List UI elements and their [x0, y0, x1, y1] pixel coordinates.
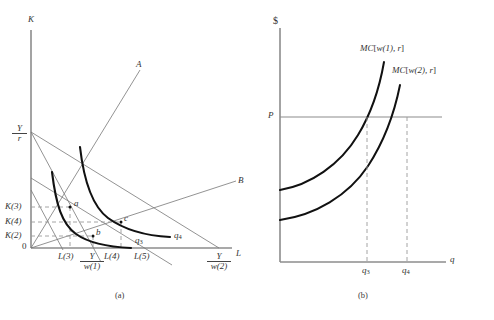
panel-a-caption: (a) — [115, 290, 124, 300]
point-c-dot — [120, 221, 123, 224]
y-intercept-numerator: Y — [12, 124, 27, 133]
x-tick-fraction-y-over-w2: Y w(2) — [207, 252, 231, 271]
isocost-line-w2-outer — [31, 132, 219, 248]
isoquant-q4-curve — [80, 147, 170, 237]
panel-b-y-axis-label: $ — [273, 16, 278, 26]
mc-w1-arg: w(1), r — [377, 43, 402, 53]
panel-a-y-axis-label: K — [28, 15, 34, 24]
isocost-line-w1-inner — [31, 190, 63, 250]
mc-w1-prefix: MC — [360, 43, 374, 53]
panel-a-graphics — [31, 30, 236, 265]
point-a-dot — [69, 206, 72, 209]
y-over-w2-denominator: w(2) — [207, 261, 231, 271]
y-over-w2-numerator: Y — [207, 252, 231, 261]
panel-b-graphics — [280, 28, 446, 262]
mc-curve-w2 — [280, 85, 400, 220]
mc-w2-arg: w(2), r — [409, 65, 434, 75]
price-label: P — [268, 111, 274, 120]
y-intercept-denominator: r — [12, 133, 27, 143]
mc-w2-close-bracket: ] — [433, 65, 436, 75]
isoquant-q3-sub: 3 — [140, 238, 143, 245]
point-label-a: a — [74, 199, 79, 208]
mc-w1-close-bracket: ] — [401, 43, 404, 53]
x-tick-fraction-y-over-w1: Y w(1) — [80, 252, 104, 271]
point-label-b: b — [96, 228, 101, 237]
y-intercept-fraction: Y r — [12, 124, 27, 143]
x-tick-label-l4: L(4) — [104, 252, 120, 261]
panel-b-q4-sub: 4 — [407, 268, 410, 275]
isoquant-label-q4: q4 — [174, 231, 182, 241]
panel-b-caption: (b) — [358, 290, 368, 300]
isoquant-q4-sub: 4 — [179, 233, 182, 240]
mc-curve-label-w1: MC[w(1), r] — [360, 44, 404, 53]
figure-canvas — [0, 0, 494, 320]
point-b-dot — [92, 235, 95, 238]
point-label-c: c — [124, 214, 128, 223]
isoquant-label-q3: q3 — [135, 236, 143, 246]
ray-label-a: A — [136, 60, 142, 69]
mc-curve-label-w2: MC[w(2), r] — [392, 66, 436, 75]
figure-root: K L 0 Y r K(3) K(4) K(2) L(3) L(4) L(5) … — [0, 0, 494, 320]
mc-curve-w1 — [280, 62, 384, 190]
y-tick-label-k3: K(3) — [5, 202, 22, 211]
panel-b-x-tick-q3: q3 — [362, 266, 370, 276]
y-tick-label-k2: K(2) — [5, 231, 22, 240]
x-tick-label-l5: L(5) — [134, 252, 150, 261]
y-over-w1-numerator: Y — [80, 252, 104, 261]
panel-b-guides — [367, 117, 407, 262]
isoquant-q3-curve — [52, 172, 131, 248]
panel-b-q3-sub: 3 — [367, 268, 370, 275]
y-over-w1-denominator: w(1) — [80, 261, 104, 271]
panel-b-x-axis-label: q — [450, 255, 455, 264]
panel-a-x-axis-label: L — [236, 249, 241, 258]
x-tick-label-l3: L(3) — [58, 252, 74, 261]
panel-b-x-tick-q4: q4 — [402, 266, 410, 276]
y-tick-label-k4: K(4) — [5, 217, 22, 226]
panel-a-origin-label: 0 — [22, 242, 27, 251]
panel-a-guides — [31, 207, 121, 248]
ray-label-b: B — [238, 176, 244, 185]
mc-w2-prefix: MC — [392, 65, 406, 75]
